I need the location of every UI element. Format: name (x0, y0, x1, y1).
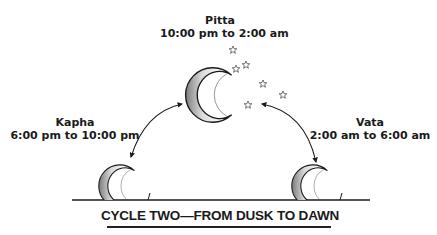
star-icon (229, 46, 237, 53)
phase-time-vata: 2:00 am to 6:00 am (305, 129, 435, 142)
star-icon (242, 61, 250, 68)
phase-name-pitta: Pitta (160, 14, 280, 27)
horizon-tick-left (148, 193, 150, 200)
phase-name-vata: Vata (305, 116, 435, 129)
moon-icon-vata (292, 165, 328, 207)
moon-icon-kapha (99, 165, 135, 207)
star-icon (259, 80, 267, 87)
title-underline (107, 226, 331, 228)
phase-name-kapha: Kapha (10, 116, 140, 129)
star-icon (244, 101, 252, 108)
phase-time-pitta: 10:00 pm to 2:00 am (160, 27, 280, 40)
moon-icon-pitta (186, 68, 232, 123)
label-vata: Vata 2:00 am to 6:00 am (305, 116, 435, 142)
star-icon (279, 91, 287, 98)
label-pitta: Pitta 10:00 pm to 2:00 am (160, 14, 280, 40)
diagram-title: CYCLE TWO—FROM DUSK TO DAWN (100, 208, 340, 223)
phase-time-kapha: 6:00 pm to 10:00 pm (10, 129, 140, 142)
horizon-tick-right (340, 193, 342, 200)
label-kapha: Kapha 6:00 pm to 10:00 pm (10, 116, 140, 142)
star-icon (232, 65, 240, 72)
